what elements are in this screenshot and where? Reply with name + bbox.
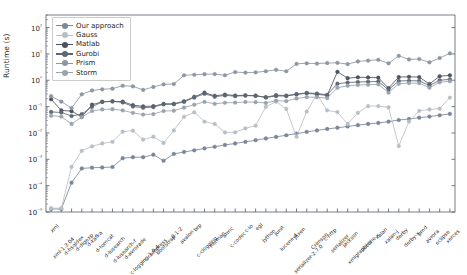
y-tick-label: 10⁻⁵ [28,207,42,217]
legend-item-gauss[interactable]: Gauss [56,30,124,39]
legend-item-label: Our approach [73,22,124,30]
legend-item-label: Storm [73,69,97,77]
y-tick-label: 10⁻² [28,128,42,138]
legend-item-label: Gurobi [73,50,99,58]
legend-item-prism[interactable]: Prism [56,59,124,68]
legend-item-label: Matlab [73,40,100,48]
legend-marker-icon [56,31,73,40]
y-tick-label: 10¹ [31,49,42,59]
y-tick-label: 10² [31,23,42,33]
y-axis-label: Runtime (s) [2,33,11,78]
legend-item-gurobi[interactable]: Gurobi [56,49,124,58]
y-tick-label: 10⁻¹ [28,102,42,112]
y-tick-label: 10⁰ [31,75,42,85]
legend-marker-icon [56,68,73,77]
series-gurobi [49,78,451,118]
legend-item-label: Gauss [73,31,97,39]
y-tick-label: 10⁻³ [28,154,42,164]
legend-item-storm[interactable]: Storm [56,68,124,77]
legend-item-our-approach[interactable]: Our approach [56,21,124,30]
legend-marker-icon [56,21,73,30]
y-tick-label: 10⁻⁴ [28,181,42,191]
legend-marker-icon [56,49,73,58]
chart-legend[interactable]: Our approachGaussMatlabGurobiPrismStorm [52,17,131,81]
legend-item-matlab[interactable]: Matlab [56,40,124,49]
legend-marker-icon [56,40,73,49]
legend-marker-icon [56,59,73,68]
series-gauss [49,93,451,210]
legend-item-label: Prism [73,59,95,67]
x-axis-ticks [51,209,450,213]
